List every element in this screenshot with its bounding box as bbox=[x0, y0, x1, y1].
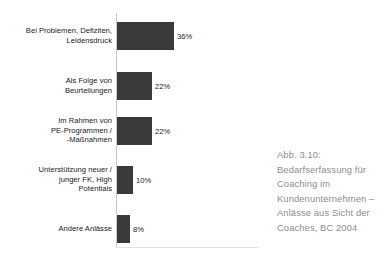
bar-value-label: 8% bbox=[133, 225, 144, 234]
caption-line: Coaches, BC 2004 bbox=[277, 221, 385, 236]
bar-rect bbox=[117, 22, 174, 50]
bar-value-label: 10% bbox=[136, 176, 151, 185]
bar-category-label: Bei Problemen, Defiziten, Leidensdruck bbox=[0, 26, 112, 45]
bar-value-label: 22% bbox=[155, 127, 170, 136]
chart-baseline bbox=[116, 247, 259, 248]
caption-line: Anlässe aus Sicht der bbox=[277, 206, 385, 221]
caption-line: Kundenunternehmen – bbox=[277, 192, 385, 207]
figure-caption: Abb. 3.10: Bedarfserfassung für Coaching… bbox=[277, 148, 385, 236]
figure-container: Bei Problemen, Defiziten, Leidensdruck 3… bbox=[0, 0, 385, 272]
caption-line: Abb. 3.10: bbox=[277, 148, 385, 163]
bar-chart: Bei Problemen, Defiziten, Leidensdruck 3… bbox=[0, 0, 262, 272]
bar-rect bbox=[117, 166, 133, 194]
bar-category-label: Als Folge von Beurteilungen bbox=[0, 76, 112, 95]
bar-category-label: Im Rahmen von PE-Programmen / -Maßnahmen bbox=[0, 116, 112, 145]
caption-line: Coaching im bbox=[277, 177, 385, 192]
bar-category-label: Unterstützung neuer / junger FK, High Po… bbox=[0, 165, 112, 194]
bar-category-label: Andere Anlässe bbox=[0, 224, 112, 234]
bar-rect bbox=[117, 117, 152, 145]
bar-rect bbox=[117, 215, 130, 243]
bar-value-label: 22% bbox=[155, 82, 170, 91]
bar-value-label: 36% bbox=[177, 32, 192, 41]
bar-rect bbox=[117, 72, 152, 100]
caption-line: Bedarfserfassung für bbox=[277, 163, 385, 178]
